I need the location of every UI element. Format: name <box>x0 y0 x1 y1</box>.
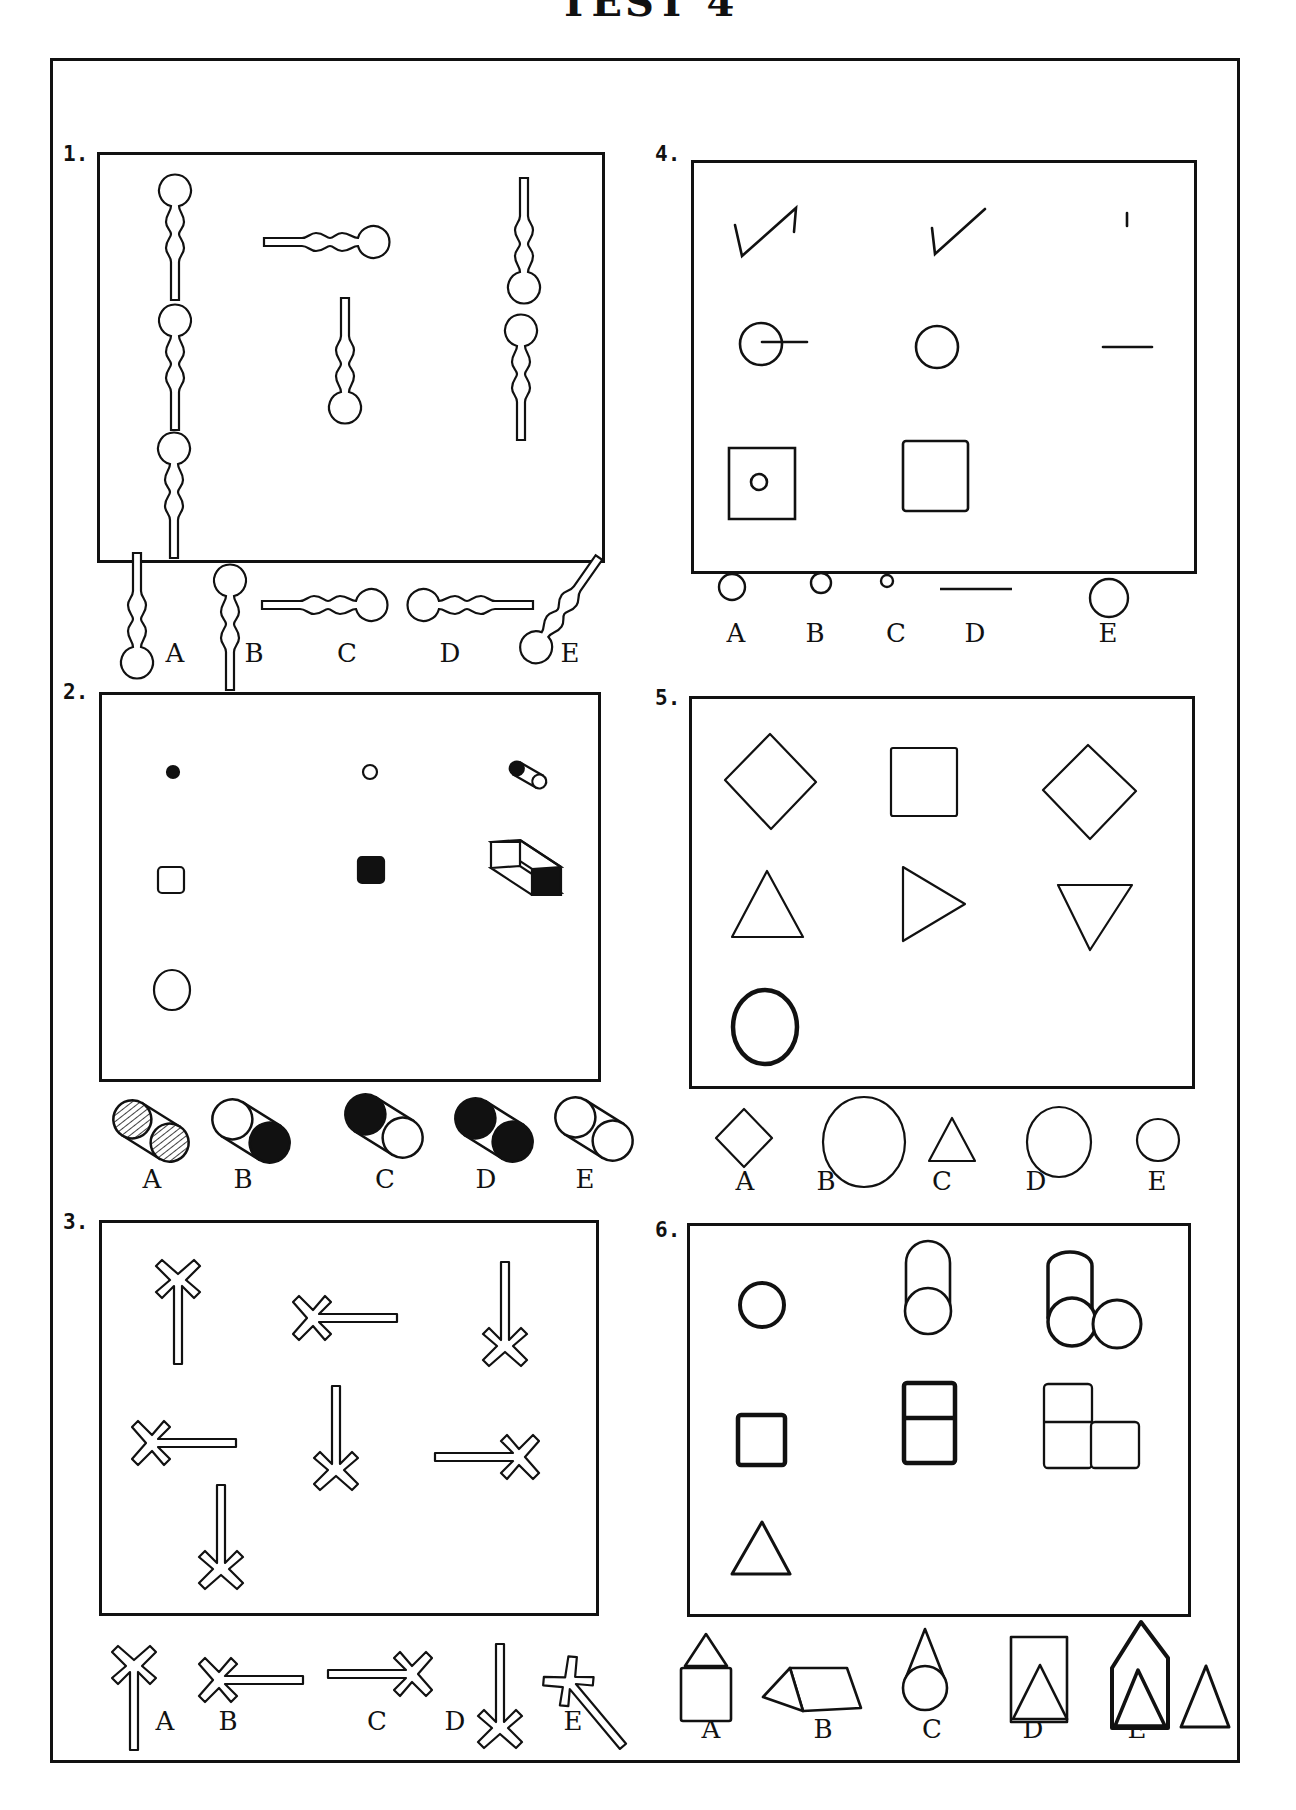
q4-option-d[interactable]: D <box>965 620 986 646</box>
question-1-box <box>97 152 605 563</box>
question-6-number: 6. <box>655 1218 680 1242</box>
q3-option-d[interactable]: D <box>445 1708 466 1734</box>
q6-option-e[interactable]: E <box>1128 1716 1147 1742</box>
question-4-box <box>691 160 1197 574</box>
q3-option-a[interactable]: A <box>156 1708 175 1734</box>
q3-option-b[interactable]: B <box>218 1708 237 1734</box>
q6-option-b[interactable]: B <box>813 1716 832 1742</box>
question-2-number: 2. <box>63 680 88 704</box>
q3-option-c[interactable]: C <box>367 1708 387 1734</box>
q1-option-e[interactable]: E <box>561 640 580 666</box>
question-5-number: 5. <box>655 686 680 710</box>
q2-option-d[interactable]: D <box>476 1166 497 1192</box>
q4-option-c[interactable]: C <box>886 620 906 646</box>
q1-option-c[interactable]: C <box>337 640 357 666</box>
q5-option-c[interactable]: C <box>932 1168 952 1194</box>
test-title: TEST 4 <box>0 0 1296 25</box>
q1-option-b[interactable]: B <box>244 640 263 666</box>
question-5-box <box>689 696 1195 1089</box>
q3-option-e[interactable]: E <box>564 1708 583 1734</box>
q4-option-a[interactable]: A <box>727 620 746 646</box>
q5-option-d[interactable]: D <box>1026 1168 1047 1194</box>
q4-option-b[interactable]: B <box>805 620 824 646</box>
question-4-number: 4. <box>655 142 680 166</box>
q6-option-a[interactable]: A <box>702 1716 721 1742</box>
q5-option-a[interactable]: A <box>736 1168 755 1194</box>
question-1-number: 1. <box>63 142 88 166</box>
q5-option-e[interactable]: E <box>1148 1168 1167 1194</box>
q1-option-a[interactable]: A <box>166 640 185 666</box>
question-3-box <box>99 1220 599 1616</box>
q6-option-d[interactable]: D <box>1023 1716 1044 1742</box>
q2-option-a[interactable]: A <box>143 1166 162 1192</box>
question-2-box <box>99 692 601 1082</box>
q4-option-e[interactable]: E <box>1099 620 1118 646</box>
q2-option-c[interactable]: C <box>375 1166 395 1192</box>
question-6-box <box>687 1223 1191 1617</box>
question-3-number: 3. <box>63 1210 88 1234</box>
q2-option-e[interactable]: E <box>576 1166 595 1192</box>
q6-option-c[interactable]: C <box>922 1716 942 1742</box>
q1-option-d[interactable]: D <box>440 640 461 666</box>
q2-option-b[interactable]: B <box>233 1166 252 1192</box>
q5-option-b[interactable]: B <box>816 1168 835 1194</box>
